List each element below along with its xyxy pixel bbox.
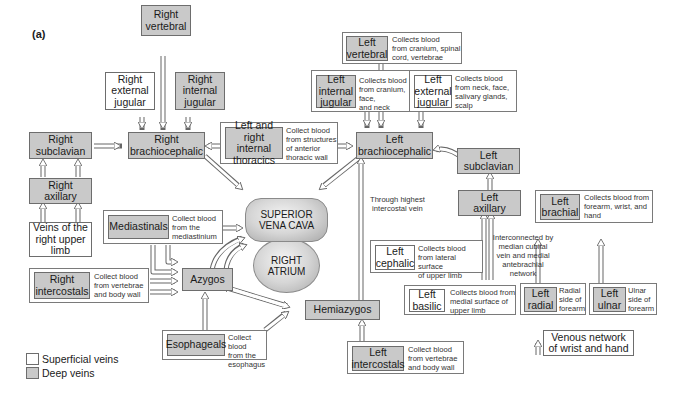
legend: Superficial veins Deep veins <box>26 353 118 379</box>
left-radial-group: Left radial Radial side of forearm <box>520 283 586 315</box>
interconnected-note: Interconnected by median cubital vein an… <box>486 233 560 278</box>
highest-intercostal-note: Through highest intercostal vein <box>370 195 425 213</box>
right-subclavian-box: Right subclavian <box>29 132 92 159</box>
left-intercostals-box: Left intercostals <box>352 346 404 371</box>
right-axillary-box: Right axillary <box>29 178 92 204</box>
right-upper-limb-veins-box: Veins of the right upper limb <box>29 222 92 257</box>
right-intercostals-group: Right intercostals Collect blood from ve… <box>29 268 149 303</box>
left-intercostals-group: Left intercostals Collect blood from ver… <box>347 341 464 374</box>
left-brachial-group: Left brachial Collects blood from forear… <box>535 190 653 223</box>
left-external-jugular-description: Collects blood from neck, face, salivary… <box>455 74 509 110</box>
mediastinals-group: Mediastinals Collect blood from the medi… <box>103 210 223 244</box>
left-external-jugular-box: Left external jugular <box>414 75 452 108</box>
left-external-jugular-group: Left external jugular Collects blood fro… <box>409 70 517 112</box>
azygos-box: Azygos <box>182 268 233 291</box>
superficial-swatch <box>26 353 39 365</box>
left-axillary-box: Left axillary <box>458 190 521 216</box>
left-internal-jugular-box: Left internal jugular <box>316 75 356 108</box>
right-intercostals-description: Collect blood from vertebrae and body wa… <box>94 272 143 299</box>
left-radial-description: Radial side of forearm <box>559 286 585 313</box>
left-intercostals-description: Collect blood from vertebrae and body wa… <box>408 345 457 372</box>
legend-superficial-label: Superficial veins <box>42 353 118 365</box>
left-vertebral-description: Collects blood from cranium, spinal cord… <box>392 35 460 62</box>
superior-vena-cava: SUPERIOR VENA CAVA <box>245 198 328 242</box>
left-basilic-box: Left basilic <box>409 289 445 312</box>
legend-deep-label: Deep veins <box>42 367 95 379</box>
left-brachial-box: Left brachial <box>540 194 580 220</box>
left-cephalic-description: Collects blood from lateral surface of u… <box>418 244 482 280</box>
left-basilic-group: Left basilic Collects blood from medial … <box>404 285 516 315</box>
esophageals-group: Esophageals Collect blood from the esoph… <box>162 330 267 360</box>
internal-thoracics-description: Collect blood from structures of anterio… <box>286 126 337 162</box>
esophageals-description: Collect blood from the esophagus <box>228 333 266 369</box>
esophageals-box: Esophageals <box>167 334 225 356</box>
legend-item-superficial: Superficial veins <box>26 353 118 365</box>
mediastinals-description: Collect blood from the mediastinium <box>172 214 217 241</box>
right-internal-jugular-box: Right internal jugular <box>175 72 225 110</box>
right-brachiocephalic-box: Right brachiocephalic <box>128 132 205 159</box>
left-vertebral-group: Left vertebral Collects blood from crani… <box>342 32 462 64</box>
left-ulnar-box: Left ulnar <box>593 287 626 312</box>
mediastinals-box: Mediastinals <box>108 215 169 239</box>
left-internal-jugular-group: Left internal jugular Collects blood fro… <box>311 70 423 112</box>
hemiazygos-box: Hemiazygos <box>305 300 380 320</box>
left-cephalic-box: Left cephalic <box>375 245 415 270</box>
left-ulnar-description: Ulnar side of forearm <box>628 286 654 313</box>
left-brachiocephalic-box: Left brachiocephalic <box>356 132 433 159</box>
right-vertebral-box: Right vertebral <box>141 5 191 36</box>
left-vertebral-box: Left vertebral <box>346 36 388 61</box>
left-radial-box: Left radial <box>524 287 557 312</box>
left-basilic-description: Collects blood from medial surface of up… <box>450 288 515 315</box>
left-subclavian-box: Left subclavian <box>457 148 520 174</box>
venous-network-box: Venous network of wrist and hand <box>543 330 634 356</box>
left-brachial-description: Collects blood from forearm, wrist, and … <box>584 193 649 220</box>
internal-thoracics-box: Left and right internal thoracics <box>225 127 283 159</box>
left-cephalic-group: Left cephalic Collects blood from latera… <box>370 240 483 273</box>
internal-thoracics-group: Left and right internal thoracics Collec… <box>220 122 338 164</box>
right-atrium: RIGHT ATRIUM <box>253 238 320 293</box>
panel-label: (a) <box>32 28 45 40</box>
right-external-jugular-box: Right external jugular <box>105 72 155 110</box>
left-ulnar-group: Left ulnar Ulnar side of forearm <box>589 283 657 315</box>
right-intercostals-box: Right intercostals <box>34 272 90 299</box>
deep-swatch <box>26 367 39 379</box>
legend-item-deep: Deep veins <box>26 367 118 379</box>
